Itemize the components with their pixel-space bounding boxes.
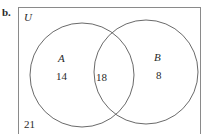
- intersection-count: 18: [96, 71, 108, 83]
- universe-label: U: [24, 11, 33, 23]
- set-a-label: A: [57, 52, 65, 64]
- universe-rectangle: [19, 8, 201, 135]
- set-a-only-count: 14: [56, 70, 68, 82]
- set-a-circle: [30, 23, 134, 127]
- set-b-circle: [94, 20, 198, 124]
- set-b-label: B: [154, 51, 161, 63]
- set-b-only-count: 8: [156, 69, 162, 81]
- outside-count: 21: [24, 118, 35, 130]
- part-label: b.: [2, 6, 11, 18]
- venn-diagram: b. U A 14 18 B 8 21: [0, 0, 203, 134]
